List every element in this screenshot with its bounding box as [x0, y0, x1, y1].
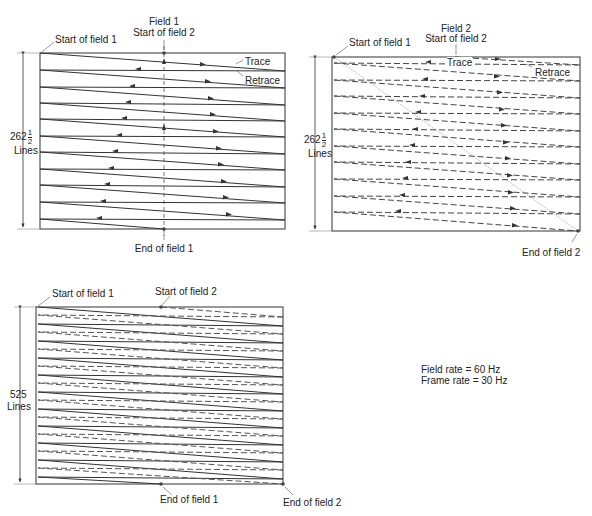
field1-retrace-label: Retrace — [245, 75, 280, 86]
field1-start-label: Start of field 1 — [55, 34, 117, 45]
field2-start-label: Start of field 1 — [349, 37, 411, 48]
field2-lines-unit: Lines — [308, 148, 332, 159]
frame-rate-text: Frame rate = 30 Hz — [421, 375, 507, 386]
frame-start-field2-label: Start of field 2 — [155, 286, 217, 297]
lines-fraction: 12 — [322, 132, 326, 149]
field1-trace-label: Trace — [245, 56, 270, 67]
field1-lines-count: 26212 — [10, 129, 32, 146]
field2-start-field2-label: Start of field 2 — [416, 33, 496, 44]
frame-end-field2-label: End of field 2 — [283, 497, 341, 508]
field1-start-field2-label: Start of field 2 — [124, 27, 204, 38]
field2-retrace-label: Retrace — [535, 67, 570, 78]
field-rate-text: Field rate = 60 Hz — [421, 364, 500, 375]
field2-lines-count: 26212 — [304, 132, 326, 149]
field1-panel — [17, 40, 285, 240]
interlaced-scan-diagram — [0, 0, 592, 516]
frame-lines-unit: Lines — [7, 401, 31, 412]
field1-lines-unit: Lines — [14, 145, 38, 156]
frame-panel — [14, 296, 293, 495]
frame-lines-count: 525 — [10, 389, 27, 400]
lines-fraction: 12 — [28, 129, 32, 146]
field2-trace-label: Trace — [447, 57, 472, 68]
field1-end-label: End of field 1 — [124, 243, 204, 254]
field2-end-label: End of field 2 — [522, 247, 580, 258]
frame-end-field1-label: End of field 1 — [160, 494, 218, 505]
lines-whole: 262 — [304, 134, 321, 145]
field1-title: Field 1 — [134, 16, 194, 27]
frame-start-field1-label: Start of field 1 — [52, 288, 114, 299]
lines-whole: 262 — [10, 131, 27, 142]
